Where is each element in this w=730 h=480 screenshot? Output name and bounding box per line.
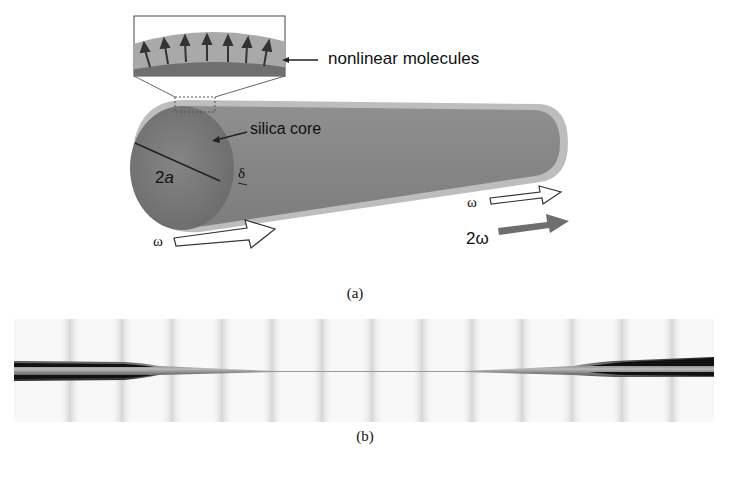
figure-a-diagram: nonlinear molecules silica core 2a δ ω ω… <box>0 0 730 310</box>
input-omega-label: ω <box>153 233 163 249</box>
zoom-line-right <box>215 76 285 97</box>
zoom-line-left <box>134 76 175 97</box>
output-fundamental-arrow <box>490 186 561 204</box>
caption-b: (b) <box>330 428 400 445</box>
output-harmonic-arrow <box>498 214 569 235</box>
diameter-label: 2a <box>155 168 174 187</box>
thickness-label: δ <box>238 165 245 181</box>
output-2omega-label: 2ω <box>466 229 489 248</box>
inset-box <box>130 16 290 80</box>
caption-a: (a) <box>347 285 364 302</box>
silica-core-end-face <box>130 106 234 230</box>
silica-core-label: silica core <box>250 120 321 137</box>
output-omega-label: ω <box>467 194 477 210</box>
figure-b-micrograph <box>14 319 714 422</box>
nonlinear-molecules-label: nonlinear molecules <box>328 49 479 68</box>
